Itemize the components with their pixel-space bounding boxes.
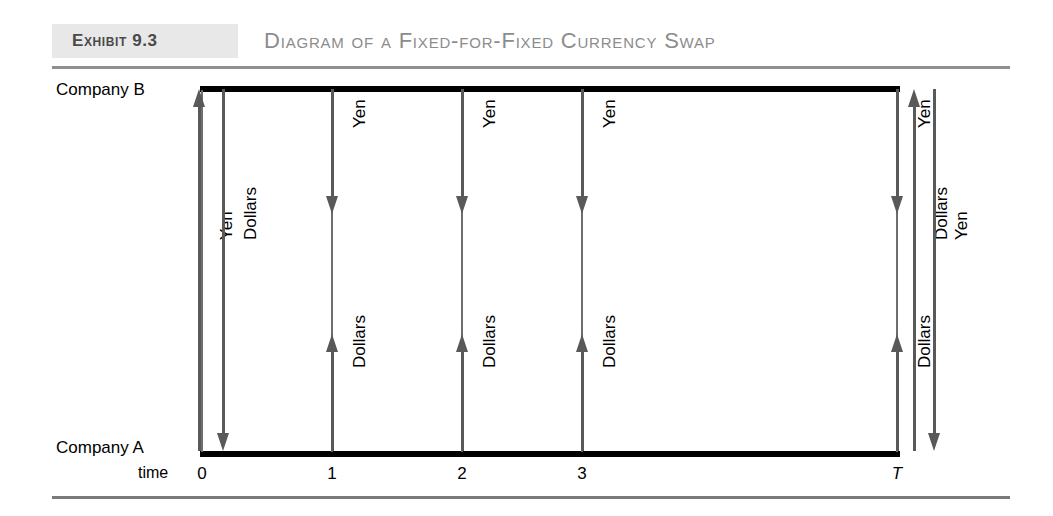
arrowhead-down-icon — [326, 196, 338, 214]
arrow-shaft — [896, 348, 899, 451]
company-b-label: Company B — [56, 80, 145, 100]
gridline-time-0 — [201, 90, 203, 452]
flow-label-yen-t1: Yen — [350, 99, 370, 128]
company-a-label: Company A — [56, 438, 144, 458]
flow-label-yen-t3: Yen — [600, 99, 620, 128]
flow-label-dollars-t2: Dollars — [480, 315, 500, 368]
exhibit-tag-label: Exhibit 9.3 — [72, 31, 158, 51]
flow-label-yen-tT: Yen — [952, 211, 972, 240]
tick-label-0: 0 — [187, 464, 217, 484]
tick-label-1: 1 — [317, 464, 347, 484]
arrowhead-down-icon — [928, 433, 940, 451]
arrowhead-up-icon — [193, 89, 205, 107]
arrowhead-up-icon — [326, 334, 338, 352]
flow-label-dollars-t1: Dollars — [350, 315, 370, 368]
arrowhead-down-icon — [456, 196, 468, 214]
exhibit-header: Exhibit 9.3 Diagram of a Fixed-for-Fixed… — [52, 24, 1012, 60]
flow-label-dollars-t0: Dollars — [241, 187, 261, 240]
arrow-shaft — [933, 89, 936, 437]
tick-label-T: T — [882, 464, 912, 484]
figure-divider-bottom — [52, 496, 1010, 499]
arrowhead-up-icon — [576, 334, 588, 352]
arrowhead-up-icon — [456, 334, 468, 352]
arrowhead-up-icon — [891, 334, 903, 352]
arrowhead-down-icon — [576, 196, 588, 214]
exhibit-title: Diagram of a Fixed-for-Fixed Currency Sw… — [264, 28, 716, 54]
arrow-shaft — [913, 103, 916, 451]
arrow-shaft — [461, 348, 464, 451]
arrow-shaft — [581, 348, 584, 451]
company-a-timeline — [200, 451, 900, 457]
tick-label-2: 2 — [447, 464, 477, 484]
arrowhead-up-icon — [908, 89, 920, 107]
arrow-shaft — [896, 89, 899, 200]
arrow-shaft — [198, 103, 201, 451]
arrow-shaft — [331, 348, 334, 451]
tick-label-3: 3 — [567, 464, 597, 484]
header-divider-top — [52, 66, 1010, 69]
time-axis-label: time — [138, 464, 168, 482]
flow-label-dollars-t3: Dollars — [600, 315, 620, 368]
arrow-shaft — [331, 89, 334, 200]
arrow-shaft — [222, 89, 225, 437]
company-b-timeline — [200, 86, 900, 92]
flow-label-yen-t0: Yen — [217, 211, 237, 240]
arrowhead-down-icon — [217, 433, 229, 451]
exhibit-figure: Exhibit 9.3 Diagram of a Fixed-for-Fixed… — [0, 0, 1053, 516]
flow-label-dollars-tT: Dollars — [915, 315, 935, 368]
flow-label-yen-t2: Yen — [480, 99, 500, 128]
arrowhead-down-icon — [891, 196, 903, 214]
arrow-shaft — [581, 89, 584, 200]
arrow-shaft — [461, 89, 464, 200]
